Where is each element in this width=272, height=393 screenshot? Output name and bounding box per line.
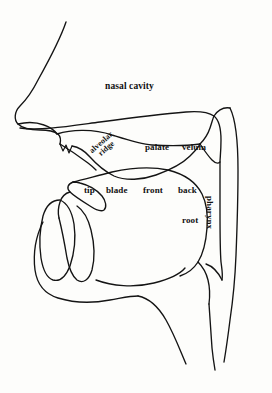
neck-front-outline-path — [138, 296, 186, 364]
label-tongue-back: back — [178, 186, 197, 195]
label-pharynx: pharynx — [205, 196, 214, 229]
mouth-floor-path — [96, 268, 185, 286]
label-tongue-tip: tip — [84, 186, 95, 195]
larynx-front-path — [206, 264, 222, 280]
face-profile-path — [15, 22, 66, 144]
nasopharynx-roof-path — [214, 108, 230, 116]
velum-uvula-path — [200, 116, 214, 144]
label-velum: velum — [182, 143, 206, 152]
label-tongue-blade: blade — [106, 186, 128, 195]
label-tongue-front: front — [143, 186, 163, 195]
trachea-front-path — [209, 304, 215, 370]
mandible-inner-path — [59, 206, 94, 282]
label-palate: palate — [145, 143, 169, 152]
vocal-tract-outline-svg — [0, 0, 272, 393]
label-tongue-root: root — [182, 216, 198, 225]
nasal-cavity-roof-path — [20, 112, 214, 129]
vocal-tract-diagram: nasal cavity palate velum alveolar ridge… — [0, 0, 272, 393]
hard-palate-path — [57, 130, 200, 145]
jaw-chin-outline-path — [34, 222, 138, 302]
pharynx-front-wall-path — [214, 116, 222, 280]
epiglottis-notch-path — [198, 262, 210, 304]
label-nasal-cavity: nasal cavity — [105, 82, 154, 92]
lower-teeth-path — [58, 192, 70, 218]
neck-back-outline-path — [224, 108, 238, 362]
